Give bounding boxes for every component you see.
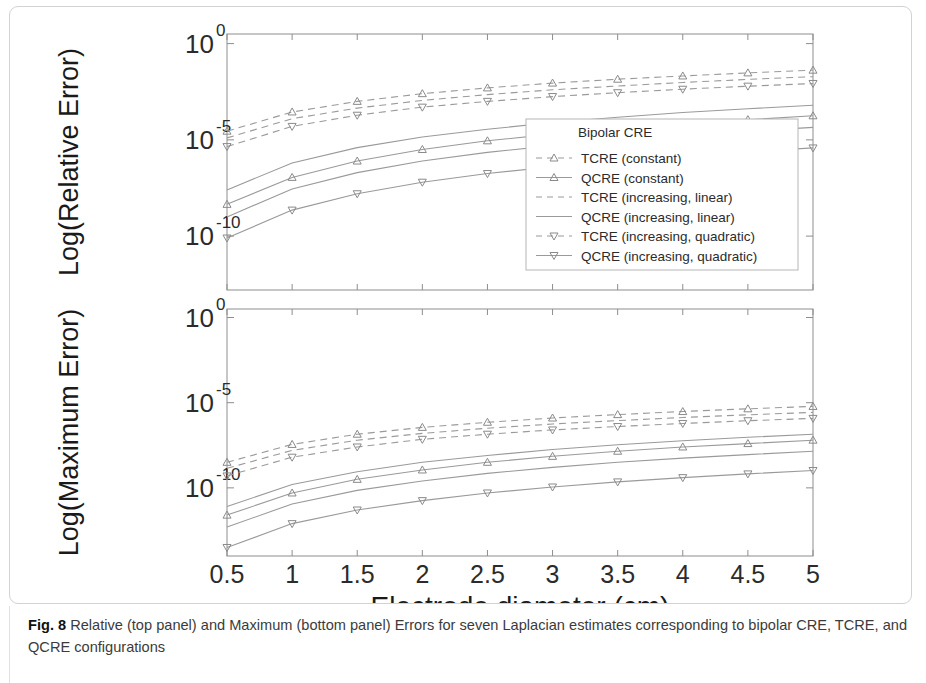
caption-text: Relative (top panel) and Maximum (bottom… bbox=[28, 617, 907, 655]
plots-svg: 10010-510-10Log(Relative Error)0.511.522… bbox=[10, 7, 912, 604]
data-point-marker bbox=[288, 440, 296, 447]
data-point-marker bbox=[418, 90, 426, 97]
page-left-rule bbox=[9, 606, 10, 683]
figure-page: 10010-510-10Log(Relative Error)0.511.522… bbox=[0, 0, 926, 683]
data-point-marker bbox=[614, 424, 622, 431]
x-tick-label: 3.5 bbox=[600, 560, 635, 588]
x-axis-title: Electrode diameter (cm) bbox=[371, 591, 670, 604]
x-tick-label: 2.5 bbox=[470, 560, 505, 588]
legend-item-label: QCRE (constant) bbox=[581, 171, 684, 186]
data-point-marker bbox=[288, 108, 296, 115]
y-tick-label-exponent: 0 bbox=[216, 21, 225, 40]
y-tick-label-exponent: -5 bbox=[216, 380, 231, 399]
y-tick-label-base: 10 bbox=[185, 221, 214, 251]
x-tick-label: 2 bbox=[415, 560, 429, 588]
x-tick-label: 4.5 bbox=[731, 560, 766, 588]
x-tick-label: 5 bbox=[806, 560, 820, 588]
data-point-marker bbox=[744, 405, 752, 412]
series-line bbox=[227, 471, 813, 548]
y-tick-label: 100 bbox=[185, 295, 225, 333]
x-tick-label: 1 bbox=[285, 560, 299, 588]
legend-item-label: QCRE (increasing, linear) bbox=[581, 210, 735, 225]
legend-item-label: TCRE (increasing, quadratic) bbox=[581, 229, 755, 244]
y-tick-label: 10-5 bbox=[185, 117, 231, 155]
y-tick-label-base: 10 bbox=[185, 303, 214, 333]
y-tick-label: 100 bbox=[185, 21, 225, 59]
data-point-marker bbox=[614, 90, 622, 97]
legend: Bipolar CRETCRE (constant)QCRE (constant… bbox=[526, 119, 798, 270]
y-tick-label-base: 10 bbox=[185, 125, 214, 155]
y-axis-title: Log(Relative Error) bbox=[54, 48, 84, 276]
caption-label: Fig. 8 bbox=[28, 617, 66, 633]
legend-item-label: QCRE (increasing, quadratic) bbox=[581, 249, 757, 264]
data-point-marker bbox=[744, 83, 752, 90]
series-line bbox=[227, 451, 813, 527]
y-tick-label-base: 10 bbox=[185, 388, 214, 418]
series-qcre-increasing-linear bbox=[227, 451, 813, 527]
figure-image-frame: 10010-510-10Log(Relative Error)0.511.522… bbox=[9, 6, 912, 604]
series-qcre-constant bbox=[223, 436, 817, 518]
y-axis-title: Log(Maximum Error) bbox=[54, 309, 84, 557]
y-tick-label-base: 10 bbox=[185, 473, 214, 503]
legend-title: Bipolar CRE bbox=[578, 125, 652, 140]
legend-item-label: TCRE (constant) bbox=[581, 151, 682, 166]
series-line bbox=[227, 440, 813, 515]
figure-caption: Fig. 8 Relative (top panel) and Maximum … bbox=[28, 614, 908, 658]
y-tick-label: 10-5 bbox=[185, 380, 231, 418]
y-tick-label-base: 10 bbox=[185, 29, 214, 59]
maximum-error-panel: 0.511.522.533.544.5510010-510-10Log(Maxi… bbox=[54, 295, 820, 604]
x-tick-label: 0.5 bbox=[210, 560, 245, 588]
y-tick-label: 10-10 bbox=[185, 465, 241, 503]
y-tick-label: 10-10 bbox=[185, 213, 241, 251]
x-tick-label: 4 bbox=[676, 560, 690, 588]
y-tick-label-exponent: 0 bbox=[216, 295, 225, 314]
legend-item-label: TCRE (increasing, linear) bbox=[581, 190, 733, 205]
x-tick-label: 1.5 bbox=[340, 560, 375, 588]
x-tick-label: 3 bbox=[546, 560, 560, 588]
